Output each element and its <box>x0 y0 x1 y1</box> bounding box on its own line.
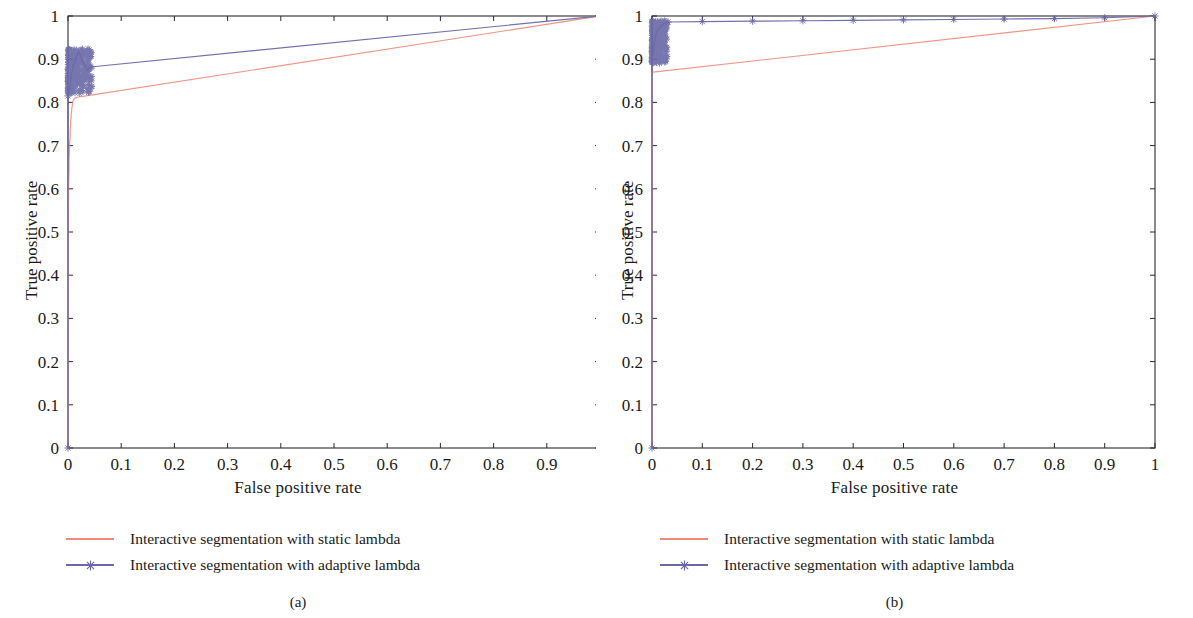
x-axis-label-b: False positive rate <box>596 478 1193 498</box>
y-tick-label: 0 <box>635 439 644 458</box>
legend-item-static-a: Interactive segmentation with static lam… <box>62 526 420 552</box>
series-markers <box>64 12 596 451</box>
x-tick-label: 0.9 <box>536 455 557 474</box>
roc-plot-b: 00.10.20.30.40.50.60.70.80.9100.10.20.30… <box>596 0 1193 520</box>
x-tick-label: 0.1 <box>111 455 132 474</box>
legend-swatch-adaptive-line <box>62 558 118 572</box>
series-line <box>652 16 1155 448</box>
x-tick-label: 0.3 <box>792 455 813 474</box>
x-tick-label: 0 <box>648 455 657 474</box>
x-tick-label: 0.4 <box>843 455 865 474</box>
panel-a: 00.10.20.30.40.50.60.70.80.9100.10.20.30… <box>0 0 596 618</box>
y-tick-label: 0.7 <box>38 137 60 156</box>
x-tick-label: 0.8 <box>1044 455 1065 474</box>
x-tick-label: 0.8 <box>483 455 504 474</box>
y-tick-label: 0.9 <box>622 50 643 69</box>
series-markers <box>648 12 1158 451</box>
x-tick-label: 0.3 <box>217 455 238 474</box>
y-tick-label: 0.9 <box>38 50 59 69</box>
x-tick-label: 0.2 <box>742 455 763 474</box>
x-tick-label: 0.5 <box>323 455 344 474</box>
x-tick-label: 0.2 <box>164 455 185 474</box>
y-axis-label-b: True positive rate <box>618 181 638 300</box>
legend-swatch-static-line <box>62 532 118 546</box>
x-tick-label: 0.7 <box>430 455 452 474</box>
legend-label-adaptive: Interactive segmentation with adaptive l… <box>130 556 420 574</box>
series-line <box>68 16 596 448</box>
y-tick-label: 0 <box>51 439 60 458</box>
y-tick-label: 0.3 <box>38 309 59 328</box>
roc-figure: 00.10.20.30.40.50.60.70.80.9100.10.20.30… <box>0 0 1193 618</box>
x-tick-label: 0.4 <box>270 455 292 474</box>
star-marker-icon <box>679 560 690 571</box>
legend-label-static: Interactive segmentation with static lam… <box>724 530 994 548</box>
star-marker-icon <box>85 560 96 571</box>
x-tick-label: 0.6 <box>943 455 964 474</box>
legend-swatch-adaptive-line <box>656 558 712 572</box>
x-tick-label: 0.9 <box>1094 455 1115 474</box>
x-axis-label-a: False positive rate <box>0 478 596 498</box>
legend-a: Interactive segmentation with static lam… <box>62 526 420 578</box>
series-line <box>652 16 1155 448</box>
y-axis-label-a: True positive rate <box>22 181 42 300</box>
legend-item-adaptive-b: Interactive segmentation with adaptive l… <box>656 552 1014 578</box>
x-tick-label: 0.1 <box>692 455 713 474</box>
plot-area-a: 00.10.20.30.40.50.60.70.80.9100.10.20.30… <box>0 0 596 520</box>
panel-b: 00.10.20.30.40.50.60.70.80.9100.10.20.30… <box>596 0 1193 618</box>
x-tick-label: 0 <box>64 455 73 474</box>
x-tick-label: 0.7 <box>993 455 1015 474</box>
legend-label-static: Interactive segmentation with static lam… <box>130 530 400 548</box>
y-tick-label: 1 <box>51 7 60 26</box>
y-tick-label: 1 <box>635 7 644 26</box>
y-tick-label: 0.2 <box>38 353 59 372</box>
legend-item-static-b: Interactive segmentation with static lam… <box>656 526 1014 552</box>
legend-swatch-static-line <box>656 532 712 546</box>
legend-b: Interactive segmentation with static lam… <box>656 526 1014 578</box>
plot-area-b: 00.10.20.30.40.50.60.70.80.9100.10.20.30… <box>596 0 1193 520</box>
y-tick-label: 0.1 <box>38 396 59 415</box>
legend-item-adaptive-a: Interactive segmentation with adaptive l… <box>62 552 420 578</box>
y-tick-label: 0.1 <box>622 396 643 415</box>
legend-label-adaptive: Interactive segmentation with adaptive l… <box>724 556 1014 574</box>
y-tick-label: 0.7 <box>622 137 644 156</box>
caption-a: (a) <box>0 594 596 611</box>
series-line <box>68 16 596 448</box>
caption-b: (b) <box>596 594 1193 611</box>
x-tick-label: 0.5 <box>893 455 914 474</box>
roc-plot-a: 00.10.20.30.40.50.60.70.80.9100.10.20.30… <box>0 0 596 520</box>
y-tick-label: 0.8 <box>38 93 59 112</box>
y-tick-label: 0.3 <box>622 309 643 328</box>
x-tick-label: 0.6 <box>377 455 398 474</box>
x-tick-label: 1 <box>1151 455 1160 474</box>
y-tick-label: 0.2 <box>622 353 643 372</box>
y-tick-label: 0.8 <box>622 93 643 112</box>
